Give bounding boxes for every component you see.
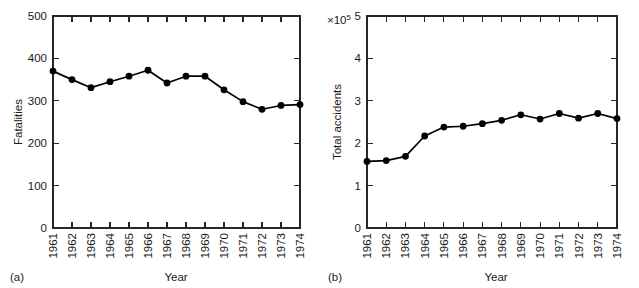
y-tick-label: 4: [355, 52, 362, 64]
y-axis-title-a: Fatalities: [12, 99, 24, 145]
x-tick-label: 1966: [142, 233, 154, 259]
y-tick-label: 2: [355, 137, 361, 149]
y-axis-exponent-b: ×105: [327, 13, 352, 26]
data-point: [145, 67, 152, 74]
data-point: [594, 110, 601, 117]
x-tick-label: 1973: [592, 233, 604, 259]
x-tick-label: 1974: [294, 232, 306, 258]
data-point: [183, 73, 190, 80]
panel-letter-a: (a): [10, 271, 24, 283]
x-axis-title-b: Year: [484, 271, 507, 283]
y-tick-label: 200: [28, 137, 47, 149]
chart-panel-b: 012345 196119621963196419651966196719681…: [319, 0, 639, 288]
x-tick-label: 1963: [85, 233, 97, 259]
series-markers-total-accidents: [364, 110, 621, 165]
x-tick-label: 1967: [161, 233, 173, 259]
panel-letter-b: (b): [328, 271, 342, 283]
y-axis-exponent-power-b: 5: [347, 13, 352, 22]
x-tick-label: 1964: [104, 232, 116, 258]
data-point: [164, 80, 171, 87]
x-tick-label: 1964: [419, 232, 431, 258]
x-tick-label: 1971: [553, 233, 565, 259]
y-tick-label: 5: [355, 10, 361, 22]
x-axis-title-a: Year: [164, 271, 187, 283]
x-tick-label: 1970: [534, 233, 546, 259]
x-tick-label: 1970: [218, 233, 230, 259]
y-tick-label: 0: [41, 222, 47, 234]
chart-svg-a: 0100200300400500 19611962196319641965196…: [0, 0, 320, 288]
x-tick-label: 1967: [476, 233, 488, 259]
y-axis-title-b: Total accidents: [331, 84, 343, 160]
y-tick-label: 300: [28, 95, 47, 107]
data-point: [498, 117, 505, 124]
data-point: [575, 115, 582, 122]
x-tick-label: 1963: [399, 233, 411, 259]
y-tick-labels-a: 0100200300400500: [28, 10, 47, 234]
data-point: [460, 123, 467, 130]
y-tick-label: 400: [28, 52, 47, 64]
x-tick-label: 1962: [380, 233, 392, 259]
x-tick-label: 1961: [47, 233, 59, 259]
axis-ticks-a: [53, 16, 300, 228]
x-tick-label: 1961: [361, 233, 373, 259]
data-point: [202, 73, 209, 80]
chart-svg-b: 012345 196119621963196419651966196719681…: [319, 0, 639, 288]
x-tick-label: 1969: [515, 233, 527, 259]
data-point: [614, 115, 621, 122]
y-tick-labels-b: 012345: [355, 10, 362, 234]
y-tick-label: 500: [28, 10, 47, 22]
data-point: [479, 120, 486, 127]
data-point: [126, 73, 133, 80]
data-point: [556, 110, 563, 117]
x-tick-label: 1968: [496, 233, 508, 259]
data-point: [278, 102, 285, 109]
x-tick-label: 1962: [66, 233, 78, 259]
y-tick-label: 100: [28, 180, 47, 192]
y-tick-label: 1: [355, 180, 361, 192]
plot-frame-a: [53, 16, 300, 228]
data-point: [240, 98, 247, 105]
data-point: [50, 68, 57, 75]
y-tick-label: 3: [355, 95, 361, 107]
data-point: [364, 158, 371, 165]
x-tick-label: 1972: [256, 233, 268, 259]
data-point: [441, 124, 448, 131]
x-tick-labels-b: 1961196219631964196519661967196819691970…: [361, 232, 623, 258]
data-point: [297, 101, 304, 108]
x-tick-labels-a: 1961196219631964196519661967196819691970…: [47, 232, 306, 258]
data-point: [259, 106, 266, 113]
data-point: [383, 157, 390, 164]
data-point: [402, 153, 409, 160]
x-tick-label: 1965: [438, 233, 450, 259]
x-tick-label: 1971: [237, 233, 249, 259]
x-tick-label: 1965: [123, 233, 135, 259]
series-markers-fatalities: [50, 67, 304, 113]
data-point: [221, 86, 228, 93]
data-point: [537, 116, 544, 123]
data-point: [517, 111, 524, 118]
y-tick-label: 0: [355, 222, 361, 234]
data-point: [107, 78, 114, 85]
data-point: [421, 133, 428, 140]
data-point: [69, 76, 76, 83]
figure-container: 0100200300400500 19611962196319641965196…: [0, 0, 639, 288]
x-tick-label: 1969: [199, 233, 211, 259]
x-tick-label: 1966: [457, 233, 469, 259]
x-tick-label: 1972: [573, 233, 585, 259]
x-tick-label: 1974: [611, 232, 623, 258]
x-tick-label: 1968: [180, 233, 192, 259]
x-tick-label: 1973: [275, 233, 287, 259]
y-axis-exponent-base-b: ×10: [327, 14, 347, 26]
data-point: [88, 84, 95, 91]
chart-panel-a: 0100200300400500 19611962196319641965196…: [0, 0, 320, 288]
